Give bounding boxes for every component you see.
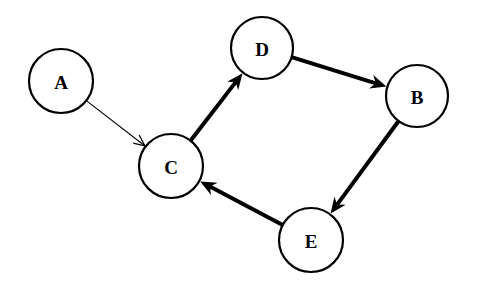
edge-c-to-d [191, 73, 243, 140]
node-label: A [54, 72, 68, 93]
node-e: E [279, 208, 343, 272]
edge-b-to-e [331, 121, 399, 213]
edge-line [210, 187, 283, 225]
edge-line [191, 82, 236, 141]
node-d: D [231, 17, 293, 79]
node-c: C [139, 134, 203, 198]
node-label: B [411, 87, 424, 108]
node-a: A [29, 49, 93, 113]
node-label: E [305, 231, 318, 252]
node-label: D [255, 39, 269, 60]
directed-graph-diagram: ADBCE [0, 0, 479, 284]
node-b: B [386, 65, 448, 127]
edge-line [337, 121, 399, 205]
nodes-layer: ADBCE [29, 17, 448, 272]
edge-line [292, 57, 376, 83]
edge-line [86, 101, 144, 146]
node-label: C [164, 157, 178, 178]
edge-d-to-b [292, 57, 387, 88]
edges-layer [86, 57, 398, 225]
edge-e-to-c [200, 181, 283, 225]
edge-a-to-c [86, 101, 145, 146]
